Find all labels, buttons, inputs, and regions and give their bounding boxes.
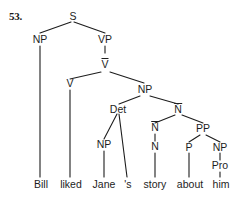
- edge-det-s: [119, 114, 127, 177]
- node-pro: Pro: [212, 160, 228, 171]
- node-np-pp: NP: [213, 142, 228, 153]
- node-pp: PP: [196, 123, 210, 134]
- word-liked: liked: [60, 178, 82, 190]
- edge-vbar-v: [70, 72, 101, 79]
- word-about: about: [177, 178, 203, 190]
- node-n-bar-lower: N: [151, 121, 159, 133]
- node-np-subject: NP: [33, 34, 48, 45]
- node-s: S: [69, 11, 76, 22]
- node-vp: VP: [98, 34, 112, 45]
- node-v-bar: V: [101, 58, 108, 70]
- word-possessive-s: 's: [124, 178, 131, 190]
- edge-s-np: [40, 22, 71, 33]
- node-n: N: [151, 141, 159, 152]
- edge-vbar-npobj: [110, 72, 144, 83]
- node-np-possessor: NP: [97, 139, 112, 150]
- word-him: him: [213, 178, 230, 190]
- node-det: Det: [110, 104, 126, 115]
- edge-det-nppos: [104, 114, 117, 139]
- node-p: P: [185, 142, 192, 153]
- node-np-object: NP: [138, 84, 153, 95]
- edge-s-vp: [74, 22, 105, 33]
- syntax-tree-figure: 53.: [0, 0, 245, 205]
- node-n-bar-upper: N: [174, 103, 182, 115]
- word-jane: Jane: [93, 178, 116, 190]
- node-v: V: [66, 78, 73, 89]
- word-bill: Bill: [34, 178, 48, 190]
- word-story: story: [144, 178, 167, 190]
